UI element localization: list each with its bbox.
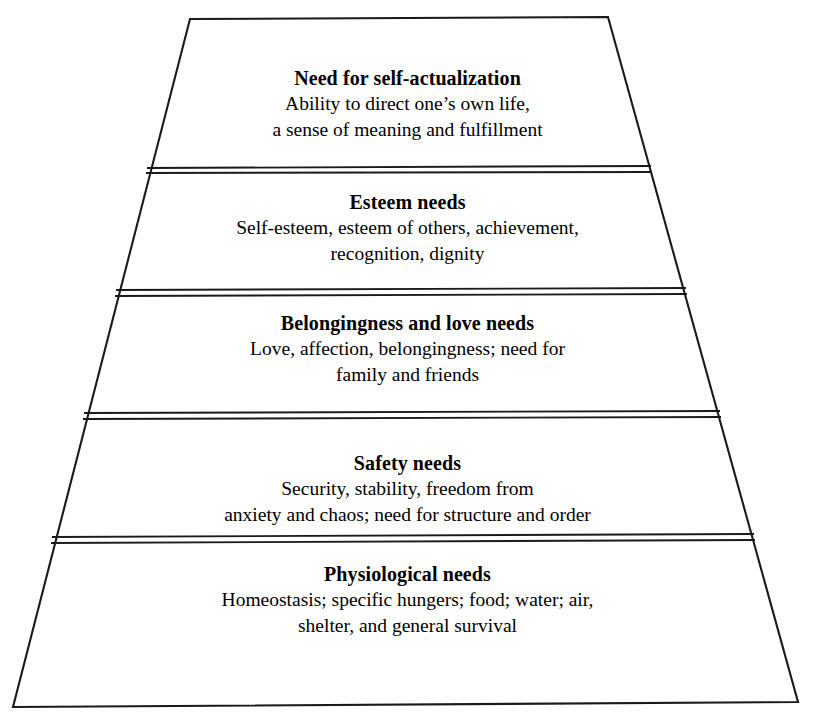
tier-title-safety: Safety needs bbox=[0, 451, 815, 476]
tier-description-line: Self-esteem, esteem of others, achieveme… bbox=[0, 215, 815, 241]
pyramid-tier-belongingness-and-love: Belongingness and love needs Love, affec… bbox=[0, 311, 815, 388]
maslow-pyramid-figure: Need for self-actualization Ability to d… bbox=[0, 0, 815, 728]
tier-description-esteem: Self-esteem, esteem of others, achieveme… bbox=[0, 215, 815, 267]
tier-title-belongingness-and-love: Belongingness and love needs bbox=[0, 311, 815, 336]
tier-description-belongingness-and-love: Love, affection, belongingness; need for… bbox=[0, 336, 815, 388]
tier-text-layer: Need for self-actualization Ability to d… bbox=[0, 0, 815, 728]
tier-description-line: recognition, dignity bbox=[0, 241, 815, 267]
tier-description-line: Love, affection, belongingness; need for bbox=[0, 336, 815, 362]
tier-description-physiological: Homeostasis; specific hungers; food; wat… bbox=[0, 587, 815, 639]
tier-description-safety: Security, stability, freedom from anxiet… bbox=[0, 476, 815, 528]
pyramid-tier-physiological: Physiological needs Homeostasis; specifi… bbox=[0, 562, 815, 639]
tier-description-line: Security, stability, freedom from bbox=[0, 476, 815, 502]
pyramid-tier-esteem: Esteem needs Self-esteem, esteem of othe… bbox=[0, 190, 815, 267]
tier-title-physiological: Physiological needs bbox=[0, 562, 815, 587]
tier-description-line: family and friends bbox=[0, 362, 815, 388]
tier-description-line: anxiety and chaos; need for structure an… bbox=[0, 502, 815, 528]
tier-description-self-actualization: Ability to direct one’s own life, a sens… bbox=[0, 91, 815, 143]
tier-description-line: shelter, and general survival bbox=[0, 613, 815, 639]
tier-description-line: Ability to direct one’s own life, bbox=[0, 91, 815, 117]
tier-description-line: Homeostasis; specific hungers; food; wat… bbox=[0, 587, 815, 613]
pyramid-tier-safety: Safety needs Security, stability, freedo… bbox=[0, 451, 815, 528]
tier-description-line: a sense of meaning and fulfillment bbox=[0, 117, 815, 143]
tier-title-esteem: Esteem needs bbox=[0, 190, 815, 215]
pyramid-tier-self-actualization: Need for self-actualization Ability to d… bbox=[0, 66, 815, 143]
tier-title-self-actualization: Need for self-actualization bbox=[0, 66, 815, 91]
